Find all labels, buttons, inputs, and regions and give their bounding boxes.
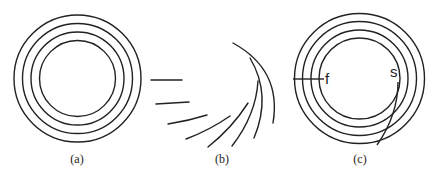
caption-b: (b) xyxy=(215,152,229,167)
caption-c: (c) xyxy=(353,152,366,167)
panel-b-strokes xyxy=(151,43,274,147)
label-s: s xyxy=(390,63,398,80)
figure-canvas xyxy=(0,0,439,173)
label-f: f xyxy=(325,70,329,87)
panel-a-circles xyxy=(14,15,141,142)
caption-a: (a) xyxy=(70,152,83,167)
